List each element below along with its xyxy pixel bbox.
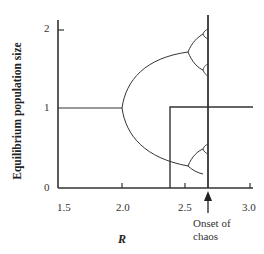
bifurcation-chart bbox=[0, 0, 264, 254]
onset-arrow-head bbox=[204, 191, 212, 201]
period-4-lower-a bbox=[188, 149, 203, 166]
y-tick-label-2: 2 bbox=[44, 22, 50, 34]
x-tick-label-2.5: 2.5 bbox=[178, 201, 192, 213]
period-2-lower bbox=[122, 108, 188, 166]
y-tick-label-0: 0 bbox=[44, 181, 50, 193]
x-tick-label-2.0: 2.0 bbox=[116, 201, 130, 213]
period-4-upper-a bbox=[188, 34, 203, 52]
inset-box bbox=[170, 107, 253, 188]
x-axis-label: R bbox=[118, 232, 126, 247]
x-tick-label-3.0: 3.0 bbox=[242, 201, 256, 213]
annotation-line-2: chaos bbox=[193, 230, 231, 243]
period-2-upper bbox=[122, 52, 188, 108]
y-axis-label: Equilibrium population size bbox=[11, 36, 23, 186]
x-tick-label-1.5: 1.5 bbox=[57, 201, 71, 213]
annotation-line-1: Onset of bbox=[193, 217, 231, 230]
onset-of-chaos-annotation: Onset of chaos bbox=[193, 217, 231, 243]
y-tick-label-1: 1 bbox=[44, 101, 50, 113]
period-4-lower-b bbox=[188, 166, 203, 174]
period-4-upper-b bbox=[188, 52, 203, 70]
